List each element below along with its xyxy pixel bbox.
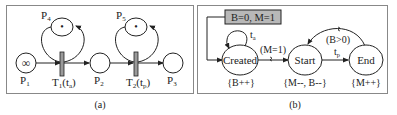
caption-a: (a) [94,99,105,111]
transition-t2 [134,52,138,76]
state-end-label: End [357,54,375,66]
label-p1: P1 [20,74,30,88]
edge-start-end-label: tp [334,46,340,58]
transition-t1 [60,52,64,76]
state-start-action: {M--, B--} [283,77,326,88]
caption-b: (b) [289,99,301,111]
label-t1: T1(ta) [52,76,76,90]
state-start: Start {M--, B--} [283,45,326,88]
place-p2: P2 [90,53,110,88]
state-created: Created {B++} [222,45,258,88]
label-t2: T2(tp) [126,76,150,90]
label-p5: P5 [116,9,126,23]
state-start-label: Start [295,54,316,66]
label-p3: P3 [167,74,177,88]
edge-created-start-label: (M=1) [260,44,286,56]
place-p3: P3 [163,53,183,88]
self-loop-label: ta [250,29,256,41]
label-p2: P2 [94,74,104,88]
place-p5: • P5 [116,9,147,36]
state-end-action: {M++} [351,77,381,88]
edge-end-start-label: (B>0) [326,34,350,46]
label-p4: P4 [41,9,51,23]
place-p4: • P4 [41,9,73,36]
state-created-label: Created [223,54,258,66]
init-box-label: B=0, M=1 [231,12,275,23]
token-dot: • [134,21,138,32]
token-dot: • [60,21,64,32]
figure: ∞ P1 T1(ta) • P4 P2 T2(tp) • [0,0,397,115]
state-created-action: {B++} [227,77,255,88]
token-infinity: ∞ [22,56,31,70]
state-end: End {M++} [349,45,383,88]
panel-b: B=0, M=1 Created {B++} ta (M=1) Start {M… [198,6,388,112]
panel-a: ∞ P1 T1(ta) • P4 P2 T2(tp) • [7,6,194,112]
place-p1: ∞ P1 [16,53,36,88]
